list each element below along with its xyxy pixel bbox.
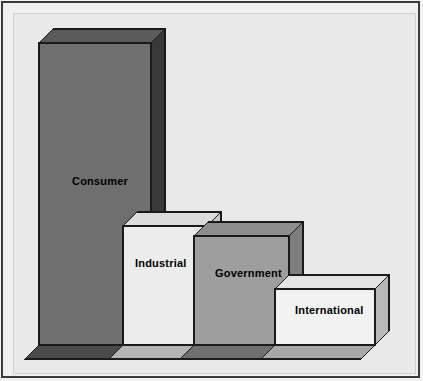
bar-international-bottom-face (261, 345, 375, 359)
bar-international (261, 275, 389, 359)
bar-consumer-top-face (39, 29, 165, 43)
bar-government-top-face (194, 222, 303, 236)
bars-svg (14, 14, 416, 374)
chart-plot-area: Consumer Industrial Government Internati… (13, 13, 416, 374)
bar-group-3d (14, 14, 416, 374)
bar-international-front-face (275, 289, 375, 345)
image-outer-frame: Consumer Industrial Government Internati… (1, 1, 420, 378)
chart-screenshot: Consumer Industrial Government Internati… (0, 0, 423, 381)
bar-international-top-face (275, 275, 389, 289)
